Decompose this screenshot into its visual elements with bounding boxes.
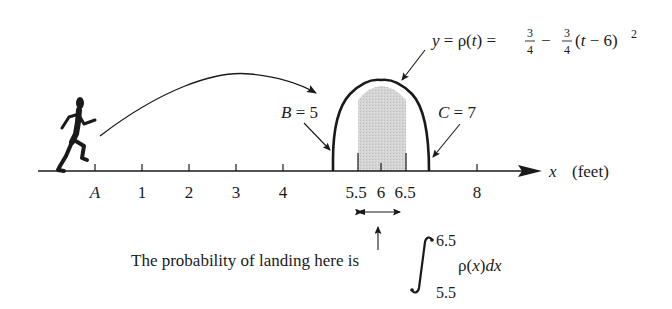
svg-text:(t − 6): (t − 6) bbox=[575, 31, 618, 50]
interval-double-arrow-left-head bbox=[356, 209, 365, 215]
tick-label-1: 1 bbox=[138, 183, 147, 202]
integrand: ρ(x)dx bbox=[458, 256, 502, 275]
b-pointer-arrow bbox=[304, 123, 330, 150]
frac1-denominator: 4 bbox=[527, 43, 533, 57]
axis-unit-label: (feet) bbox=[572, 162, 609, 181]
b-endpoint-label: B = 5 bbox=[281, 103, 318, 122]
shaded-probability-region bbox=[358, 86, 406, 171]
tick-label-a: A bbox=[89, 183, 101, 202]
tick-label-8: 8 bbox=[473, 183, 482, 202]
c-pointer-arrow bbox=[433, 124, 460, 157]
axis-variable-label: x bbox=[548, 162, 557, 181]
svg-text:y = ρ(t) =: y = ρ(t) = bbox=[430, 31, 496, 50]
integral-upper-limit: 6.5 bbox=[436, 232, 456, 249]
axis-ticks bbox=[95, 153, 477, 171]
tick-label-5-5: 5.5 bbox=[345, 183, 366, 202]
tick-label-2: 2 bbox=[185, 183, 194, 202]
density-formula: y = ρ(t) = 3 4 − 3 4 (t − 6) 2 bbox=[430, 26, 637, 57]
tick-label-4: 4 bbox=[279, 183, 288, 202]
runner-icon bbox=[58, 97, 95, 171]
formula-exponent: 2 bbox=[631, 27, 637, 41]
c-endpoint-label: C = 7 bbox=[438, 103, 476, 122]
frac1-numerator: 3 bbox=[527, 26, 533, 40]
tick-labels: A 1 2 3 4 5.5 6 6.5 8 bbox=[89, 183, 481, 202]
tick-label-6: 6 bbox=[377, 183, 386, 202]
frac2-denominator: 4 bbox=[564, 43, 570, 57]
integral-expression: 6.5 5.5 ρ(x)dx bbox=[410, 232, 502, 301]
long-jump-probability-diagram: A 1 2 3 4 5.5 6 6.5 8 x (feet) B = 5 C =… bbox=[0, 0, 672, 309]
tick-label-6-5: 6.5 bbox=[394, 183, 415, 202]
caption-text: The probability of landing here is bbox=[131, 251, 359, 270]
formula-minus: − bbox=[541, 31, 551, 50]
frac2-numerator: 3 bbox=[564, 26, 570, 40]
tick-label-3: 3 bbox=[232, 183, 241, 202]
formula-pointer-arrow bbox=[402, 50, 425, 80]
integral-sign-icon bbox=[412, 238, 432, 293]
integral-lower-limit: 5.5 bbox=[436, 284, 456, 301]
